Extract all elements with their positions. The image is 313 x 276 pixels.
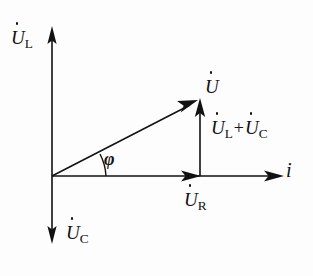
u-sum-first-symbol: U [211, 118, 225, 137]
u-l-subscript: L [25, 36, 33, 51]
label-u-r: UR [184, 190, 207, 212]
u-sum-first-subscript: L [225, 126, 233, 141]
u-symbol: U [205, 77, 219, 96]
label-current-i: i [286, 160, 292, 180]
u-phasor-line [52, 105, 190, 176]
label-phase-angle-phi: φ [104, 150, 115, 168]
label-u-l: UL [11, 28, 33, 50]
label-u-l-plus-u-c: UL+UC [211, 118, 268, 140]
u-sum-operator: + [233, 118, 245, 138]
u-sum-second-subscript: C [259, 126, 268, 141]
label-u: U [205, 77, 219, 96]
u-r-symbol: U [184, 190, 198, 209]
phasor-diagram: UL U UL+UC UR UC i φ [0, 0, 313, 276]
label-u-c: UC [66, 223, 89, 245]
u-r-subscript: R [198, 198, 207, 213]
u-c-symbol: U [66, 223, 80, 242]
u-c-subscript: C [80, 231, 89, 246]
u-l-symbol: U [11, 28, 25, 47]
u-sum-second-symbol: U [245, 118, 259, 137]
